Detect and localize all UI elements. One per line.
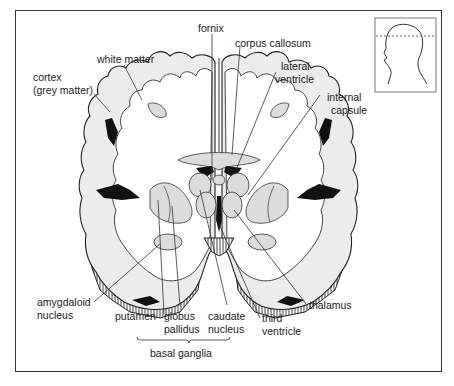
label-globus-1: globus (164, 310, 195, 322)
fornix-structure (213, 175, 225, 185)
label-thalamus: thalamus (309, 299, 352, 311)
label-caudate-2: nucleus (208, 323, 244, 335)
label-corpus-callosum: corpus callosum (235, 37, 311, 49)
label-amygdaloid-1: amygdaloid (37, 296, 91, 308)
label-cortex-2: (grey matter) (33, 84, 93, 96)
label-third-ventricle-1: third (262, 312, 283, 324)
label-globus-2: pallidus (164, 323, 200, 335)
label-white-matter: white matter (96, 53, 155, 65)
amygdaloid-nucleus-left (154, 234, 182, 250)
brain-coronal-section-diagram: fornix corpus callosum white matter late… (0, 0, 454, 386)
thalamus-right (222, 192, 242, 218)
label-lateral-ventricle-1: lateral (281, 60, 310, 72)
label-putamen: putamen (115, 310, 156, 322)
label-fornix: fornix (198, 22, 224, 34)
basal-ganglia-bracket (137, 337, 230, 343)
label-amygdaloid-2: nucleus (37, 309, 73, 321)
inset-box (375, 18, 436, 92)
label-third-ventricle-2: ventricle (262, 325, 301, 337)
label-internal-capsule-1: internal (327, 91, 361, 103)
label-caudate-1: caudate (208, 310, 246, 322)
label-cortex-1: cortex (33, 71, 62, 83)
inset-head-diagram (375, 18, 436, 92)
amygdaloid-nucleus-right (248, 234, 276, 250)
third-ventricle (216, 196, 222, 232)
label-lateral-ventricle-2: ventricle (275, 73, 314, 85)
label-basal-ganglia: basal ganglia (150, 347, 212, 359)
label-internal-capsule-2: capsule (331, 104, 367, 116)
